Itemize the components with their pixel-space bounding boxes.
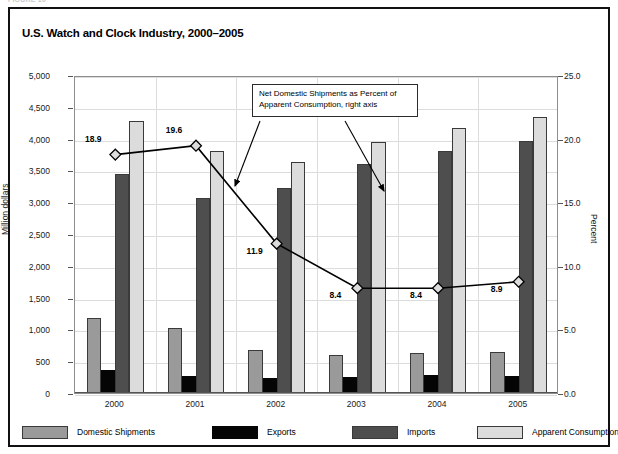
y-axis-right-tick-label: 0.0 (564, 389, 604, 399)
x-axis-tick-label: 2002 (266, 399, 285, 409)
y-axis-left-tick-mark (68, 394, 73, 395)
y-axis-left-tick-label: 5,000 (4, 71, 50, 81)
gridline-horizontal (75, 363, 557, 364)
gridline-vertical (398, 77, 399, 393)
legend-item-imports[interactable]: Imports (352, 426, 435, 439)
gridline-vertical (317, 77, 318, 393)
x-axis-tick-label: 2000 (105, 399, 124, 409)
gridline-horizontal (75, 77, 557, 78)
y-axis-left-tick-mark (68, 235, 73, 236)
y-axis-left-tick-label: 4,500 (4, 103, 50, 113)
y-axis-left-tick-label: 4,000 (4, 135, 50, 145)
bar-imports-2002 (277, 188, 291, 393)
y-axis-left-tick-label: 3,500 (4, 166, 50, 176)
y-axis-right-tick-label: 25.0 (564, 71, 604, 81)
y-axis-left-tick-label: 0 (4, 389, 50, 399)
bar-imports-2000 (115, 174, 129, 393)
y-axis-left-tick-label: 1,000 (4, 325, 50, 335)
x-axis-baseline (75, 392, 557, 393)
y-axis-left-tick-mark (68, 140, 73, 141)
x-axis-tick-label: 2001 (186, 399, 205, 409)
chart-legend: Domestic ShipmentsExportsImportsApparent… (22, 422, 600, 442)
legend-label-imports: Imports (407, 427, 435, 437)
y-axis-right-tick-label: 5.0 (564, 325, 604, 335)
gridline-vertical (478, 77, 479, 393)
gridline-horizontal (75, 268, 557, 269)
legend-swatch-domestic (22, 426, 68, 439)
line-point-label-2001: 19.6 (166, 125, 183, 135)
y-axis-left-label: Million dollars (0, 184, 10, 236)
legend-item-domestic[interactable]: Domestic Shipments (22, 426, 155, 439)
bar-imports-2001 (196, 198, 210, 393)
y-axis-right-tick-mark (558, 76, 563, 77)
plot-area: 18.919.611.98.48.48.9 (74, 76, 558, 394)
y-axis-right-tick-label: 15.0 (564, 198, 604, 208)
legend-item-exports[interactable]: Exports (212, 426, 296, 439)
chart-page: FIGURE 10 U.S. Watch and Clock Industry,… (0, 0, 618, 454)
y-axis-right-tick-mark (558, 394, 563, 395)
line-point-label-2005: 8.9 (491, 284, 503, 294)
y-axis-left-tick-mark (68, 108, 73, 109)
y-axis-left-tick-mark (68, 330, 73, 331)
y-axis-left-tick-mark (68, 203, 73, 204)
y-axis-left-tick-mark (68, 171, 73, 172)
bar-apparent-consumption-2001 (210, 151, 224, 393)
y-axis-right-label: Percent (589, 214, 599, 243)
gridline-horizontal (75, 395, 557, 396)
y-axis-right-tick-label: 10.0 (564, 262, 604, 272)
bar-apparent-consumption-2002 (291, 162, 305, 394)
y-axis-left-tick-mark (68, 267, 73, 268)
bar-exports-2005 (505, 376, 519, 393)
bar-exports-2002 (263, 378, 277, 393)
x-axis-tick-label: 2005 (508, 399, 527, 409)
y-axis-left-tick-label: 2,000 (4, 262, 50, 272)
legend-label-domestic: Domestic Shipments (77, 427, 155, 437)
bar-domestic-shipments-2002 (248, 350, 262, 393)
bar-domestic-shipments-2004 (410, 353, 424, 393)
line-point-label-2002: 11.9 (247, 246, 263, 256)
bar-exports-2000 (101, 370, 115, 393)
bar-apparent-consumption-2005 (533, 117, 547, 393)
y-axis-left-tick-label: 3,000 (4, 198, 50, 208)
bar-exports-2001 (182, 376, 196, 393)
legend-label-exports: Exports (267, 427, 296, 437)
bar-apparent-consumption-2000 (129, 121, 143, 393)
x-axis-tick-label: 2003 (347, 399, 366, 409)
figure-caption: FIGURE 10 (8, 0, 46, 3)
bar-apparent-consumption-2003 (371, 142, 385, 393)
y-axis-left-tick-mark (68, 76, 73, 77)
gridline-vertical (156, 77, 157, 393)
annotation-box: Net Domestic Shipments as Percent of App… (252, 84, 418, 117)
legend-item-apparent[interactable]: Apparent Consumption (477, 426, 618, 439)
y-axis-left-tick-mark (68, 299, 73, 300)
y-axis-right-tick-label: 20.0 (564, 135, 604, 145)
y-axis-left-tick-label: 500 (4, 357, 50, 367)
gridline-vertical (236, 77, 237, 393)
gridline-horizontal (75, 204, 557, 205)
line-point-label-2000: 18.9 (85, 134, 102, 144)
y-axis-left-tick-label: 2,500 (4, 230, 50, 240)
legend-swatch-apparent (477, 426, 523, 439)
gridline-horizontal (75, 141, 557, 142)
y-axis-right-tick-mark (558, 267, 563, 268)
bar-imports-2005 (519, 141, 533, 393)
chart-title: U.S. Watch and Clock Industry, 2000–2005 (22, 27, 243, 39)
bar-domestic-shipments-2003 (329, 355, 343, 393)
legend-label-apparent: Apparent Consumption (532, 427, 618, 437)
bar-apparent-consumption-2004 (452, 128, 466, 393)
y-axis-left-tick-mark (68, 362, 73, 363)
line-point-label-2003: 8.4 (329, 290, 341, 300)
bar-exports-2003 (343, 377, 357, 393)
bar-imports-2003 (357, 164, 371, 393)
bar-domestic-shipments-2001 (168, 328, 182, 393)
y-axis-right-tick-mark (558, 140, 563, 141)
chart-frame: U.S. Watch and Clock Industry, 2000–2005… (8, 7, 610, 447)
gridline-horizontal (75, 331, 557, 332)
gridline-horizontal (75, 236, 557, 237)
y-axis-right-tick-mark (558, 330, 563, 331)
x-axis-tick-label: 2004 (428, 399, 447, 409)
line-point-label-2004: 8.4 (410, 290, 422, 300)
bar-domestic-shipments-2005 (490, 352, 504, 393)
y-axis-left-tick-label: 1,500 (4, 294, 50, 304)
bar-domestic-shipments-2000 (87, 318, 101, 393)
